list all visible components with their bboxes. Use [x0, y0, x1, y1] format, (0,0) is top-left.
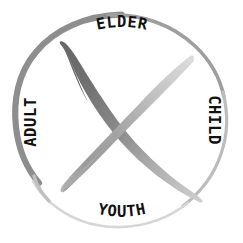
label-elder: ELDER [95, 13, 150, 34]
label-adult: ADULT [22, 97, 40, 147]
diagram-canvas: ELDER CHILD YOUTH ADULT [0, 0, 243, 243]
label-youth: YOUTH [97, 200, 148, 221]
brush-strokes [60, 41, 203, 202]
label-elder-text: ELDER [95, 13, 150, 34]
label-youth-text: YOUTH [97, 200, 148, 221]
life-stages-diagram: ELDER CHILD YOUTH ADULT [0, 0, 243, 243]
label-child: CHILD [205, 95, 223, 145]
brush-stroke-tail-lower-left [63, 151, 102, 193]
